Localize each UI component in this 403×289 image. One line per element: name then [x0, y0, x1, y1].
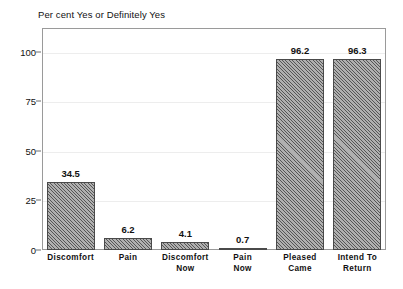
- bar[interactable]: [161, 242, 209, 250]
- x-axis-label: PainNow: [214, 252, 271, 274]
- y-tick-label: 75: [25, 96, 36, 107]
- chart-title: Per cent Yes or Definitely Yes: [38, 9, 165, 20]
- x-axis-label: PleasedCame: [271, 252, 328, 274]
- bar-slot: 34.5: [47, 28, 95, 250]
- y-tick-mark: [36, 250, 41, 251]
- x-axis-label: Discomfort: [42, 252, 99, 263]
- bar-slot: 6.2: [104, 28, 152, 250]
- bar-slot: 0.7: [219, 28, 267, 250]
- bars-group: 34.56.24.10.796.296.3: [42, 28, 386, 250]
- x-axis-label: DiscomfortNow: [157, 252, 214, 274]
- bar[interactable]: [219, 248, 267, 250]
- y-tick-mark: [36, 150, 41, 151]
- y-tick-label: 25: [25, 195, 36, 206]
- bar-chart: Per cent Yes or Definitely Yes 025507510…: [0, 0, 403, 289]
- bar[interactable]: [47, 182, 95, 250]
- y-tick-mark: [36, 200, 41, 201]
- y-tick-mark: [36, 101, 41, 102]
- y-tick-label: 50: [25, 145, 36, 156]
- y-tick-label: 100: [20, 46, 36, 57]
- bar-value-label: 96.2: [291, 45, 310, 56]
- bar[interactable]: [333, 59, 381, 250]
- bar-value-label: 34.5: [61, 168, 80, 179]
- y-axis: 0255075100: [0, 28, 36, 250]
- bar-slot: 96.2: [276, 28, 324, 250]
- y-tick-mark: [36, 51, 41, 52]
- bar-slot: 4.1: [161, 28, 209, 250]
- bar-slot: 96.3: [333, 28, 381, 250]
- bar-value-label: 96.3: [348, 45, 367, 56]
- bar-value-label: 6.2: [121, 224, 134, 235]
- x-axis-labels: DiscomfortPainDiscomfortNowPainNowPlease…: [42, 252, 386, 288]
- bar[interactable]: [104, 238, 152, 250]
- bar-value-label: 0.7: [236, 234, 249, 245]
- bar[interactable]: [276, 59, 324, 250]
- bar-value-label: 4.1: [179, 228, 192, 239]
- x-axis-label: Intend ToReturn: [329, 252, 386, 274]
- x-axis-label: Pain: [99, 252, 156, 263]
